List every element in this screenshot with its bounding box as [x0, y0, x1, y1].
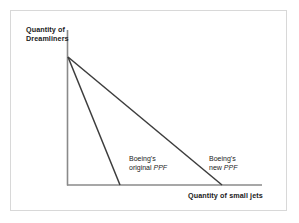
label-original-ppf-emphasis: PPF — [154, 164, 168, 171]
figure-container: Quantity of Dreamliners Quantity of smal… — [0, 0, 299, 223]
label-new-ppf-line1: Boeing's — [209, 155, 237, 164]
y-axis-label: Quantity of Dreamliners — [26, 26, 69, 43]
curve-original-ppf — [68, 57, 120, 185]
label-original-ppf: Boeing's original PPF — [129, 155, 167, 172]
label-new-ppf: Boeing's new PPF — [209, 155, 237, 172]
label-new-ppf-prefix: new — [209, 164, 224, 171]
label-new-ppf-line2: new PPF — [209, 164, 237, 173]
label-original-ppf-line1: Boeing's — [129, 155, 167, 164]
label-new-ppf-emphasis: PPF — [224, 164, 238, 171]
x-axis-label: Quantity of small jets — [188, 192, 263, 201]
label-original-ppf-prefix: original — [129, 164, 154, 171]
label-original-ppf-line2: original PPF — [129, 164, 167, 173]
